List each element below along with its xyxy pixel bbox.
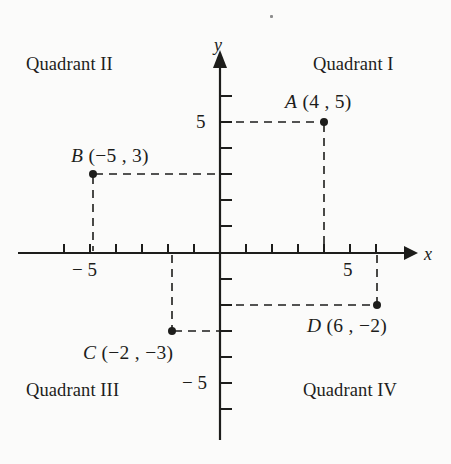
- data-point-c: [168, 327, 176, 335]
- coordinate-plane-figure: y x − 5 5 5 − 5 Quadrant II Quadrant I Q…: [0, 0, 451, 464]
- point-label-c: C (−2 , −3): [83, 343, 173, 363]
- point-b-name: B: [71, 145, 83, 166]
- data-point-a: [320, 118, 328, 126]
- point-b-coords: (−5 , 3): [88, 145, 149, 166]
- quadrant-label-iv: Quadrant IV: [303, 381, 397, 400]
- x-axis-tick-label-negative-5: − 5: [72, 260, 97, 279]
- point-label-a: A (4 , 5): [285, 92, 352, 112]
- x-axis-tick-label-5: 5: [343, 260, 353, 279]
- point-label-b: B (−5 , 3): [71, 146, 149, 166]
- point-d-name: D: [307, 315, 321, 336]
- data-point-d: [373, 301, 381, 309]
- projection-lines-point-a: [222, 122, 324, 251]
- y-axis-tick-label-5: 5: [196, 112, 206, 131]
- point-d-coords: (6 , −2): [327, 315, 388, 336]
- y-axis-label: y: [214, 36, 222, 54]
- quadrant-label-i: Quadrant I: [313, 55, 394, 74]
- projection-lines-point-b: [93, 174, 219, 251]
- quadrant-label-iii: Quadrant III: [26, 381, 119, 400]
- projection-lines-point-c: [172, 255, 219, 331]
- print-speck: [270, 15, 273, 18]
- projection-lines-point-d: [222, 255, 377, 305]
- point-label-d: D (6 , −2): [307, 316, 387, 336]
- y-axis-tick-label-negative-5: − 5: [182, 373, 207, 392]
- data-point-b: [89, 170, 97, 178]
- point-a-coords: (4 , 5): [302, 91, 351, 112]
- x-axis-arrowhead: [404, 246, 418, 260]
- quadrant-label-ii: Quadrant II: [26, 55, 113, 74]
- point-a-name: A: [285, 91, 297, 112]
- point-c-coords: (−2 , −3): [102, 342, 174, 363]
- x-axis-label: x: [424, 245, 432, 263]
- point-c-name: C: [83, 342, 96, 363]
